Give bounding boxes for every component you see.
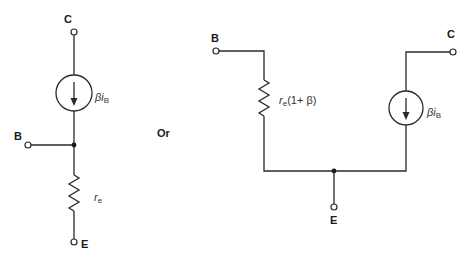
right-resistor-icon [259,80,269,116]
right-collector-wire [406,52,450,91]
right-emitter-terminal [331,204,337,210]
right-bottom-wire [264,116,406,171]
left-resistor-icon [69,175,79,211]
left-base-terminal [25,142,31,148]
left-emitter-terminal [71,239,77,245]
left-source-label: βiB [94,91,109,105]
left-collector-label: C [64,13,72,25]
left-base-label: B [14,130,22,142]
right-collector-terminal [450,49,456,55]
or-separator: Or [157,127,171,139]
right-base-terminal [213,48,219,54]
right-base-label: B [211,32,219,44]
left-junction-dot [72,143,77,148]
left-circuit: C βiB B re E [14,13,109,250]
left-collector-terminal [71,29,77,35]
right-emitter-label: E [330,214,337,226]
right-resistor-label: re(1+ β) [279,94,316,108]
left-emitter-label: E [81,238,88,250]
right-base-wire [219,51,264,80]
left-current-source-icon [56,75,92,111]
right-circuit: B re(1+ β) E βiB C [211,28,456,226]
right-collector-label: C [447,28,455,40]
right-source-label: βiB [426,106,441,120]
right-current-source-icon [389,91,423,125]
left-resistor-label: re [94,191,103,205]
transistor-equivalent-circuits: C βiB B re E Or B re(1+ β) [0,0,470,261]
